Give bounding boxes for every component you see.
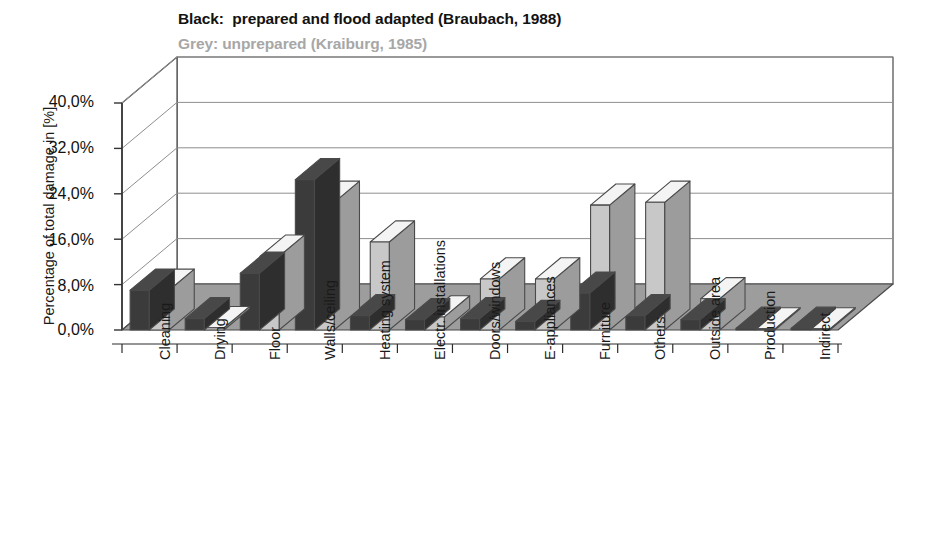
x-axis-label-11: Production [762,291,778,360]
x-axis-label-8: Furniture [597,302,613,360]
x-axis-label-12: Indirect [817,312,833,360]
x-axis-label-0: Cleaning [157,303,173,360]
x-axis-label-10: Outside area [707,277,723,360]
x-axis-label-9: Others [652,316,668,360]
x-axis-label-7: E-appliances [542,276,558,360]
x-axis-label-2: Floor [267,327,283,360]
x-axis-label-6: Doors/windows [487,262,503,360]
x-axis-label-1: Drying [212,318,228,360]
x-axis-label-3: Walls/ceiling [322,280,338,360]
x-axis-label-5: Electr. installations [432,240,448,360]
x-axis-labels: CleaningDryingFloorWalls/ceilingHeating … [0,0,931,549]
chart-figure: Black: prepared and flood adapted (Braub… [0,0,931,549]
x-axis-label-4: Heating system [377,260,393,360]
